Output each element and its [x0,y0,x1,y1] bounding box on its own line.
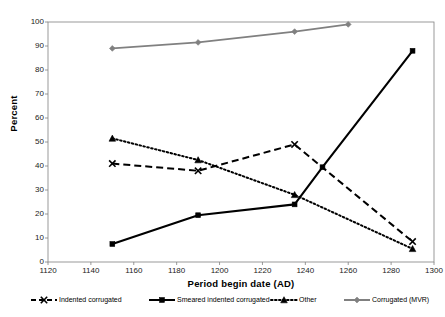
legend-label: Other [299,296,317,304]
legend-label: Indented corrugated [59,296,122,304]
legend-item-smeared-indented-corrugated[interactable]: Smeared indented corrugated [148,293,270,307]
series-corrugated-mvr [109,22,351,52]
series-other [109,135,416,252]
legend-item-corrugated-mvr[interactable]: Corrugated (MVR) [343,293,429,307]
legend-swatch-triangle-icon [270,294,298,306]
chart-figure: Percent 0102030405060708090100 112011401… [0,0,445,317]
legend-swatch-diamond-icon [343,294,371,306]
series-smeared-indented-corrugated [110,48,415,246]
plot-canvas [0,0,445,317]
x-axis-title: Period begin date (AD) [48,278,434,289]
legend-swatch-x-icon [30,294,58,306]
chart-legend: Indented corrugatedSmeared indented corr… [0,293,445,311]
legend-label: Corrugated (MVR) [372,296,429,304]
legend-item-other[interactable]: Other [270,293,317,307]
legend-label: Smeared indented corrugated [177,296,270,304]
legend-item-indented-corrugated[interactable]: Indented corrugated [30,293,122,307]
legend-swatch-square-icon [148,294,176,306]
